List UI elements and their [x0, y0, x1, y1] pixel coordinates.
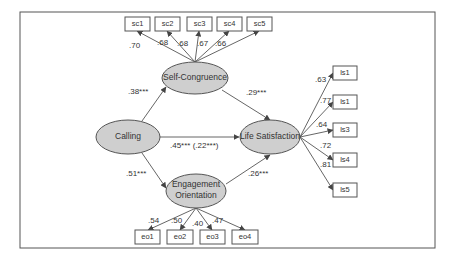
loading-label: .50: [171, 216, 183, 225]
indicator-label: ls5: [340, 185, 350, 194]
loading-label: .68: [157, 38, 169, 47]
path-label-eo-ls: .26***: [248, 169, 268, 178]
indicator-label: sc4: [224, 19, 236, 28]
loading-label: .67: [197, 39, 209, 48]
latent-label-engagement-line2: Orientation: [175, 190, 217, 200]
path-label-sc-ls: .29***: [246, 88, 266, 97]
indicator-label: ls1: [340, 97, 350, 106]
latent-label-life-satisfaction: Life Satisfaction: [240, 131, 300, 141]
indicator-label: sc2: [162, 19, 174, 28]
indicator-label: eo4: [239, 232, 252, 241]
loading-label: .77: [320, 96, 332, 105]
indicator-label: eo1: [141, 232, 154, 241]
loading-label: .54: [148, 216, 160, 225]
loading-label: .40: [192, 219, 204, 228]
loading-label: .66: [215, 39, 227, 48]
loading-label: .47: [212, 216, 224, 225]
latent-label-calling: Calling: [115, 131, 141, 141]
indicator-label: sc1: [132, 19, 144, 28]
loading-label: .68: [177, 39, 189, 48]
sem-diagram: sc1 sc2 sc3 sc4 sc5 .70 .68 .68 .67 .66 …: [0, 0, 453, 264]
path-label-calling-eo: .51***: [126, 169, 146, 178]
indicator-label: ls4: [340, 155, 350, 164]
path-label-calling-ls: .45*** (.22***): [170, 141, 219, 150]
path-label-calling-sc: .38***: [128, 87, 148, 96]
indicator-label: eo3: [206, 232, 219, 241]
loading-label: .63: [315, 75, 327, 84]
indicator-label: ls1: [340, 68, 350, 77]
sc-indicators: sc1 sc2 sc3 sc4 sc5: [125, 17, 272, 31]
indicator-label: sc3: [194, 19, 206, 28]
loading-label: .64: [316, 120, 328, 129]
indicator-label: eo2: [174, 232, 187, 241]
diagram-frame: [20, 12, 435, 248]
loading-label: .70: [129, 41, 141, 50]
latent-label-engagement-line1: Engagement: [172, 179, 221, 189]
loading-label: .72: [320, 141, 332, 150]
loading-label: .81: [320, 160, 332, 169]
latent-label-self-congruence: Self-Congruence: [163, 72, 227, 82]
indicator-label: sc5: [254, 19, 266, 28]
indicator-label: ls3: [340, 125, 350, 134]
